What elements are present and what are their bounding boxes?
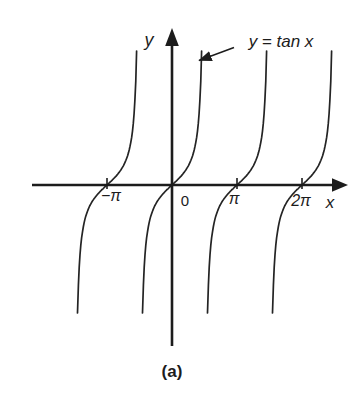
x-axis-arrowhead [332,178,348,192]
y-axis [165,28,179,346]
x-axis [32,178,348,192]
tangent-curves [78,51,332,313]
figure-caption: (a) [162,363,183,380]
x-axis-label: x [326,194,335,211]
tangent-function-figure: y y = tan x x −π 0 π 2π (a) [0,0,360,402]
x-axis-ticks [107,178,302,189]
x-tick-label-neg-pi: −π [101,188,121,204]
annotation-arrow [199,48,234,61]
x-tick-label-pi: π [229,191,240,207]
x-tick-label-2pi: 2π [291,193,311,209]
curve-equation-label: y = tan x [249,33,314,50]
y-axis-label: y [145,31,154,49]
origin-label: 0 [181,193,189,208]
y-axis-arrowhead [165,28,179,46]
